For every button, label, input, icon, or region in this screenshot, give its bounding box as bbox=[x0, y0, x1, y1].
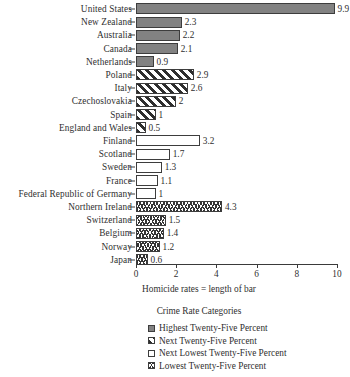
legend-swatch-icon bbox=[148, 350, 155, 357]
legend-item: Next Twenty-Five Percent bbox=[148, 335, 350, 347]
bar bbox=[136, 162, 162, 173]
x-tick bbox=[216, 264, 217, 268]
category-label: New Zealand bbox=[81, 17, 132, 27]
legend-swatch-icon bbox=[148, 337, 155, 344]
category-tick bbox=[129, 22, 135, 23]
legend-item: Highest Twenty-Five Percent bbox=[148, 322, 350, 334]
category-tick bbox=[129, 246, 135, 247]
category-tick bbox=[129, 167, 135, 168]
bar-value-label: 1.7 bbox=[173, 149, 185, 159]
category-label: Netherlands bbox=[86, 57, 132, 67]
category-tick bbox=[129, 154, 135, 155]
chart-row: Federal Republic of Germany1 bbox=[0, 187, 350, 200]
bar-value-label: 1.3 bbox=[165, 162, 177, 172]
chart-row: Sweden1.3 bbox=[0, 161, 350, 174]
chart-row: Spain1 bbox=[0, 108, 350, 121]
x-tick bbox=[176, 264, 177, 268]
chart-row: United States9.9 bbox=[0, 2, 350, 15]
bar-value-label: 1.4 bbox=[167, 228, 179, 238]
chart-row: Italy2.6 bbox=[0, 82, 350, 95]
bar bbox=[136, 109, 156, 120]
category-tick bbox=[129, 101, 135, 102]
category-label: Northern Ireland bbox=[68, 202, 132, 212]
chart-row: Switzerland1.5 bbox=[0, 214, 350, 227]
bar bbox=[136, 228, 164, 239]
chart-row: Poland2.9 bbox=[0, 68, 350, 81]
x-tick bbox=[257, 264, 258, 268]
category-tick bbox=[129, 61, 135, 62]
bar bbox=[136, 56, 154, 67]
bar bbox=[136, 69, 194, 80]
category-tick bbox=[129, 74, 135, 75]
bar bbox=[136, 96, 176, 107]
bar bbox=[136, 175, 158, 186]
bar bbox=[136, 30, 180, 41]
category-label: Finland bbox=[103, 136, 132, 146]
legend-item: Next Lowest Twenty-Five Percent bbox=[148, 347, 350, 359]
category-label: Belgium bbox=[99, 228, 132, 238]
chart-row: New Zealand2.3 bbox=[0, 16, 350, 29]
category-tick bbox=[129, 8, 135, 9]
bar bbox=[136, 188, 156, 199]
chart-row: Belgium1.4 bbox=[0, 227, 350, 240]
chart-row: Netherlands0.9 bbox=[0, 55, 350, 68]
x-axis-line bbox=[136, 264, 337, 265]
category-tick bbox=[129, 220, 135, 221]
bar-value-label: 3.2 bbox=[203, 136, 215, 146]
bar-value-label: 2.6 bbox=[191, 83, 203, 93]
x-tick bbox=[136, 264, 137, 268]
bar bbox=[136, 17, 182, 28]
category-label: England and Wales bbox=[59, 123, 132, 133]
legend-item-label: Next Lowest Twenty-Five Percent bbox=[159, 348, 287, 358]
bar bbox=[136, 201, 222, 212]
plot-area: United States9.9New Zealand2.3Australia2… bbox=[0, 0, 350, 266]
chart-row: Finland3.2 bbox=[0, 134, 350, 147]
bar-value-label: 1.1 bbox=[161, 176, 173, 186]
category-label: Switzerland bbox=[86, 215, 132, 225]
bar-value-label: 0.9 bbox=[157, 57, 169, 67]
legend-title: Crime Rate Categories bbox=[0, 306, 350, 316]
bar-value-label: 2.1 bbox=[181, 44, 193, 54]
category-tick bbox=[129, 206, 135, 207]
chart-row: England and Wales0.5 bbox=[0, 121, 350, 134]
x-tick-label: 4 bbox=[214, 269, 219, 280]
category-label: Canada bbox=[104, 44, 132, 54]
bar bbox=[136, 83, 188, 94]
bar-value-label: 2.9 bbox=[197, 70, 209, 80]
chart-row: Australia2.2 bbox=[0, 29, 350, 42]
bar-value-label: 2.2 bbox=[183, 30, 195, 40]
x-axis-caption-text: Homicide rates = length of bar bbox=[94, 284, 256, 294]
bar bbox=[136, 122, 146, 133]
category-tick bbox=[129, 114, 135, 115]
bar-value-label: 1.2 bbox=[163, 242, 175, 252]
category-label: Czechoslovakia bbox=[72, 96, 132, 106]
bar bbox=[136, 135, 200, 146]
legend: Crime Rate Categories Highest Twenty-Fiv… bbox=[0, 306, 350, 372]
chart-row: Norway1.2 bbox=[0, 240, 350, 253]
x-tick bbox=[297, 264, 298, 268]
category-label: Norway bbox=[101, 242, 132, 252]
legend-swatch-icon bbox=[148, 362, 155, 369]
category-label: Scotland bbox=[99, 149, 132, 159]
legend-item-label: Lowest Twenty-Five Percent bbox=[159, 361, 266, 371]
x-tick-label: 8 bbox=[294, 269, 299, 280]
legend-item-label: Next Twenty-Five Percent bbox=[159, 336, 257, 346]
category-tick bbox=[129, 180, 135, 181]
legend-item-label: Highest Twenty-Five Percent bbox=[159, 323, 268, 333]
chart-row: Northern Ireland4.3 bbox=[0, 200, 350, 213]
legend-swatch-icon bbox=[148, 325, 155, 332]
bar-value-label: 1 bbox=[159, 110, 164, 120]
category-tick bbox=[129, 88, 135, 89]
category-tick bbox=[129, 127, 135, 128]
category-tick bbox=[129, 35, 135, 36]
category-tick bbox=[129, 48, 135, 49]
x-axis-caption: Homicide rates = length of bar bbox=[0, 284, 350, 294]
bar-value-label: 1 bbox=[159, 189, 164, 199]
bar-value-label: 4.3 bbox=[225, 202, 237, 212]
bar-value-label: 9.9 bbox=[337, 4, 349, 14]
bar-value-label: 2 bbox=[179, 96, 184, 106]
category-tick bbox=[129, 259, 135, 260]
bar-value-label: 1.5 bbox=[169, 215, 181, 225]
bar-value-label: 0.5 bbox=[149, 123, 161, 133]
chart-row: Scotland1.7 bbox=[0, 148, 350, 161]
